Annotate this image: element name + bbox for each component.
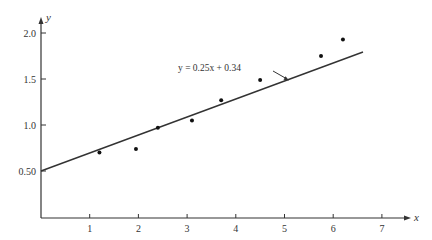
data-point <box>341 37 345 41</box>
scatter-chart: yx 12345670.501.01.52.0 y = 0.25x + 0.34 <box>0 0 432 240</box>
x-tick-label: 2 <box>136 223 141 234</box>
equation-label: y = 0.25x + 0.34 <box>178 63 241 73</box>
data-point <box>219 98 223 102</box>
data-point <box>258 78 262 82</box>
y-axis-label: y <box>45 11 51 23</box>
axes: yx <box>39 11 420 223</box>
x-axis-arrow-icon <box>404 216 411 221</box>
x-tick-label: 1 <box>87 223 92 234</box>
y-tick-label: 1.0 <box>24 120 37 131</box>
y-axis-arrow-icon <box>39 17 44 24</box>
data-point <box>97 151 101 155</box>
data-point <box>156 126 160 130</box>
x-tick-label: 3 <box>185 223 190 234</box>
y-tick-label: 1.5 <box>24 74 37 85</box>
x-tick-label: 7 <box>379 223 384 234</box>
data-point <box>319 54 323 58</box>
y-tick-label: 0.50 <box>19 166 37 177</box>
tick-marks: 12345670.501.01.52.0 <box>19 28 385 235</box>
x-tick-label: 6 <box>331 223 336 234</box>
data-point <box>190 118 194 122</box>
x-tick-label: 4 <box>233 223 238 234</box>
x-tick-label: 5 <box>282 223 287 234</box>
data-point <box>134 147 138 151</box>
x-axis-label: x <box>413 211 419 223</box>
y-tick-label: 2.0 <box>24 28 37 39</box>
equation-annotation: y = 0.25x + 0.34 <box>178 63 289 81</box>
annotation-arrowhead-icon <box>284 76 290 80</box>
